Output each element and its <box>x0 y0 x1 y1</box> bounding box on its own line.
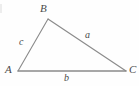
vertex-label-b: B <box>40 3 47 14</box>
vertex-label-c: C <box>129 64 136 75</box>
side-a-line <box>48 19 126 71</box>
triangle-figure: A B C a b c <box>0 0 139 86</box>
side-label-a: a <box>85 30 90 40</box>
side-label-b: b <box>64 73 69 83</box>
vertex-label-a: A <box>5 64 12 75</box>
side-label-c: c <box>19 37 23 47</box>
